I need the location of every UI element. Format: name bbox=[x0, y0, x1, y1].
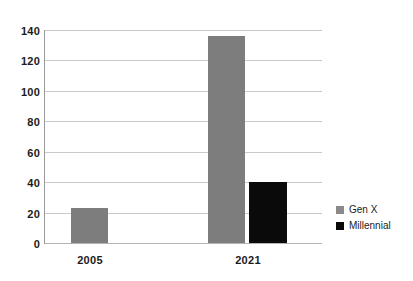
gridline-0 bbox=[44, 243, 322, 244]
x-tick-label-2021: 2021 bbox=[235, 255, 261, 266]
bar-millennial-2021 bbox=[249, 182, 287, 243]
chart-legend: Gen X Millennial bbox=[336, 203, 412, 235]
bar-genx-2021 bbox=[208, 36, 245, 243]
gridline-100 bbox=[44, 91, 322, 92]
legend-item-millennial[interactable]: Millennial bbox=[336, 219, 412, 232]
bar-chart: 140 120 100 80 60 40 20 0 2005 2021 Gen … bbox=[0, 0, 413, 281]
gridline-80 bbox=[44, 121, 322, 122]
y-tick-label-40: 40 bbox=[6, 178, 40, 189]
gridline-120 bbox=[44, 60, 322, 61]
y-tick-label-60: 60 bbox=[6, 148, 40, 159]
y-tick-label-20: 20 bbox=[6, 209, 40, 220]
y-axis-line bbox=[44, 30, 45, 244]
legend-swatch-icon-gen-x bbox=[336, 206, 344, 214]
legend-item-gen-x[interactable]: Gen X bbox=[336, 203, 412, 216]
y-tick-label-0: 0 bbox=[6, 239, 40, 250]
y-tick-label-120: 120 bbox=[6, 56, 40, 67]
legend-label-gen-x: Gen X bbox=[349, 205, 377, 215]
gridline-140 bbox=[44, 30, 322, 31]
x-tick-label-2005: 2005 bbox=[77, 255, 103, 266]
y-tick-label-80: 80 bbox=[6, 117, 40, 128]
y-tick-label-100: 100 bbox=[6, 87, 40, 98]
y-tick-label-140: 140 bbox=[6, 26, 40, 37]
gridline-60 bbox=[44, 152, 322, 153]
legend-swatch-icon-millennial bbox=[336, 222, 344, 230]
plot-area bbox=[44, 30, 322, 243]
legend-label-millennial: Millennial bbox=[349, 221, 391, 231]
y-axis-tick-labels: 140 120 100 80 60 40 20 0 bbox=[0, 30, 40, 243]
bar-genx-2005 bbox=[71, 208, 108, 243]
